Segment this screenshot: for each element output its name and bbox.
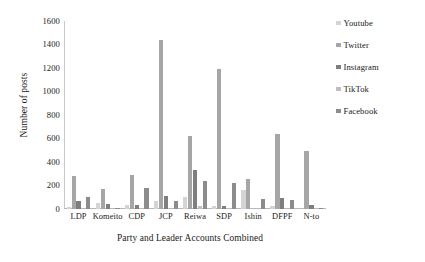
bar-instagram-n-to — [309, 205, 313, 209]
bar-chart: Number of posts 160014001200100080060040… — [0, 0, 425, 262]
x-axis-title: Party and Leader Accounts Combined — [40, 233, 340, 243]
legend-item-youtube[interactable]: Youtube — [336, 12, 424, 34]
bar-tiktok-reiwa — [198, 206, 202, 209]
y-tick-label: 800 — [26, 111, 60, 120]
legend-label: TikTok — [344, 84, 369, 94]
x-tick-label: Komeito — [93, 211, 123, 222]
bar-instagram-sdp — [222, 206, 226, 209]
legend-item-twitter[interactable]: Twitter — [336, 34, 424, 56]
legend-label: Instagram — [344, 62, 379, 72]
bar-group-jcp — [151, 21, 180, 209]
bar-twitter-sdp — [217, 69, 221, 209]
legend-swatch-icon — [336, 65, 341, 70]
bar-group-komeito — [93, 21, 122, 209]
bar-facebook-ishin — [261, 199, 265, 209]
legend-swatch-icon — [336, 21, 341, 26]
legend-label: Youtube — [344, 18, 373, 28]
x-tick-label: Ishin — [245, 211, 262, 222]
bar-facebook-cdp — [144, 188, 148, 209]
bar-twitter-dfpf — [275, 134, 279, 209]
bar-instagram-ldp — [76, 201, 80, 209]
bar-facebook-n-to — [319, 208, 323, 209]
legend-swatch-icon — [336, 109, 341, 114]
bar-twitter-ldp — [72, 176, 76, 209]
bar-facebook-ldp — [86, 197, 90, 209]
bar-facebook-komeito — [115, 208, 119, 209]
legend-label: Facebook — [344, 106, 378, 116]
legend-swatch-icon — [336, 87, 341, 92]
y-axis-tick-labels: 16001400120010008006004002000 — [26, 0, 60, 262]
bar-facebook-sdp — [232, 183, 236, 209]
bar-twitter-cdp — [130, 175, 134, 209]
bar-group-n-to — [297, 21, 326, 209]
legend-swatch-icon — [336, 43, 341, 48]
y-tick-label: 0 — [26, 205, 60, 214]
legend-item-facebook[interactable]: Facebook — [336, 100, 424, 122]
bar-group-cdp — [122, 21, 151, 209]
x-tick-label: JCP — [159, 211, 173, 222]
bar-youtube-cdp — [125, 205, 129, 209]
x-tick-label: N-to — [304, 211, 320, 222]
bar-instagram-reiwa — [193, 170, 197, 209]
bar-instagram-cdp — [135, 205, 139, 209]
x-tick-label: SDP — [216, 211, 232, 222]
y-tick-label: 600 — [26, 134, 60, 143]
bar-group-reiwa — [180, 21, 209, 209]
y-tick-label: 1400 — [26, 40, 60, 49]
bar-youtube-jcp — [154, 201, 158, 209]
x-tick-label: Reiwa — [184, 211, 206, 222]
bar-twitter-komeito — [101, 189, 105, 209]
bar-youtube-dfpf — [270, 206, 274, 209]
x-tick-label: CDP — [128, 211, 145, 222]
legend-label: Twitter — [344, 40, 369, 50]
bar-twitter-reiwa — [188, 136, 192, 209]
bar-facebook-reiwa — [203, 181, 207, 209]
bar-youtube-ldp — [67, 207, 71, 209]
y-tick-label: 1200 — [26, 64, 60, 73]
bar-facebook-dfpf — [290, 200, 294, 209]
bar-instagram-dfpf — [280, 198, 284, 209]
x-tick-label: DFPF — [272, 211, 292, 222]
bar-instagram-jcp — [164, 196, 168, 210]
legend-item-tiktok[interactable]: TikTok — [336, 78, 424, 100]
bar-group-ldp — [64, 21, 93, 209]
legend-item-instagram[interactable]: Instagram — [336, 56, 424, 78]
y-tick-label: 400 — [26, 158, 60, 167]
bar-group-sdp — [210, 21, 239, 209]
bar-youtube-reiwa — [183, 197, 187, 209]
y-tick-label: 1600 — [26, 17, 60, 26]
bar-youtube-ishin — [241, 190, 245, 209]
x-axis-tick-labels: LDPKomeitoCDPJCPReiwaSDPIshinDFPFN-to — [64, 211, 326, 227]
bar-youtube-komeito — [96, 203, 100, 209]
y-tick-label: 200 — [26, 181, 60, 190]
bar-facebook-jcp — [174, 201, 178, 209]
bar-group-ishin — [239, 21, 268, 209]
y-tick-label: 1000 — [26, 87, 60, 96]
x-tick-label: LDP — [70, 211, 86, 222]
bar-group-dfpf — [268, 21, 297, 209]
bar-twitter-ishin — [246, 179, 250, 209]
bar-twitter-n-to — [304, 151, 308, 209]
bar-instagram-komeito — [106, 204, 110, 209]
plot-area — [64, 21, 326, 209]
chart-legend: YoutubeTwitterInstagramTikTokFacebook — [336, 12, 424, 122]
bar-youtube-sdp — [212, 206, 216, 209]
bar-twitter-jcp — [159, 40, 163, 209]
